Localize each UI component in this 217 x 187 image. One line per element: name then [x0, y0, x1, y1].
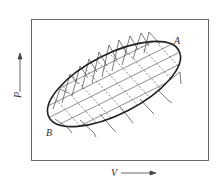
- cycle-ellipse: [35, 24, 192, 144]
- v-axis-label: V: [111, 168, 117, 178]
- point-a-label: A: [174, 36, 180, 46]
- p-axis-arrow: [18, 53, 22, 92]
- pv-diagram: [0, 0, 217, 187]
- point-b-label: B: [46, 128, 52, 138]
- crosshatch-lines: [20, 0, 217, 180]
- v-axis-arrow: [121, 171, 156, 175]
- isotherms: [20, 0, 217, 170]
- p-axis-label: P: [13, 92, 23, 98]
